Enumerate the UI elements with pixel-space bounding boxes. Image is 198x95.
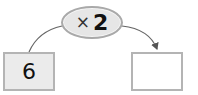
- input-value: 6: [22, 61, 36, 83]
- multiply-sign: ×: [76, 14, 90, 31]
- output-arrow: [122, 26, 157, 49]
- input-box: 6: [3, 52, 55, 91]
- operation-oval: × 2: [61, 6, 123, 39]
- input-connector-line: [29, 26, 62, 52]
- answer-box[interactable]: [131, 52, 183, 91]
- operation-operand: 2: [93, 12, 108, 34]
